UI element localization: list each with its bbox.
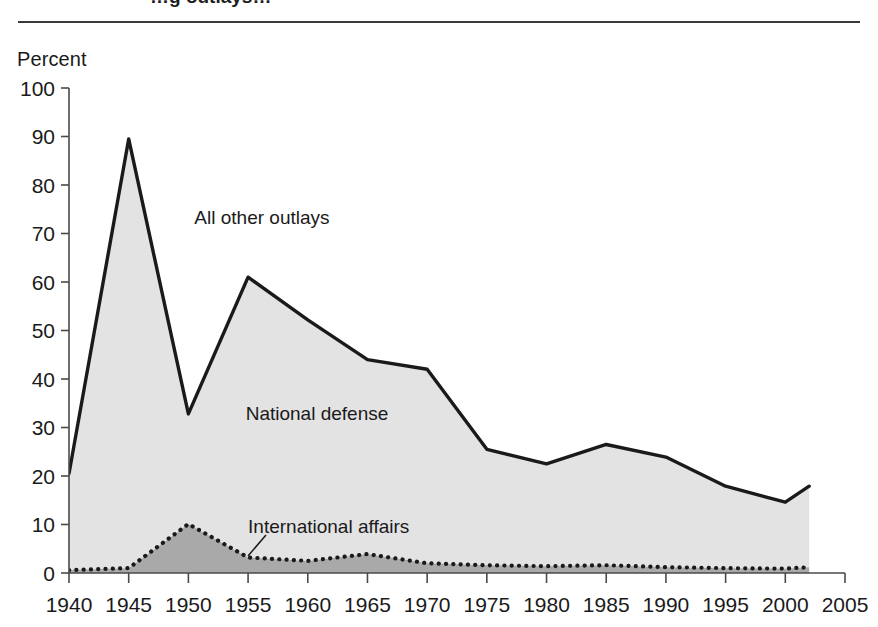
x-tick-label: 1975 [463, 593, 510, 616]
chart-annotation-international-affairs: International affairs [248, 516, 409, 537]
y-tick-label: 20 [32, 465, 55, 488]
y-tick-label: 90 [32, 125, 55, 148]
y-tick-label: 10 [32, 513, 55, 536]
y-tick-label: 30 [32, 416, 55, 439]
x-tick-label: 1990 [643, 593, 690, 616]
x-tick-label: 1985 [583, 593, 630, 616]
x-tick-layer: 1940194519501955196019651970197519801985… [46, 573, 869, 616]
y-tick-layer: 0102030405060708090100 [20, 77, 69, 585]
figure-container: …g outlays… Percent 01020304050607080901… [0, 0, 878, 627]
x-tick-label: 2005 [822, 593, 869, 616]
x-tick-label: 1965 [344, 593, 391, 616]
x-tick-label: 1960 [284, 593, 331, 616]
x-tick-label: 1950 [165, 593, 212, 616]
y-tick-label: 60 [32, 271, 55, 294]
y-tick-label: 100 [20, 77, 55, 100]
area-chart-plot: 0102030405060708090100 19401945195019551… [0, 0, 878, 627]
x-tick-label: 2000 [762, 593, 809, 616]
x-tick-label: 1995 [702, 593, 749, 616]
x-tick-label: 1970 [404, 593, 451, 616]
all-other-outlays-area [69, 139, 809, 570]
chart-annotation-all-other-outlays: All other outlays [194, 207, 329, 228]
x-tick-label: 1940 [46, 593, 93, 616]
y-tick-label: 0 [43, 562, 55, 585]
y-tick-label: 40 [32, 368, 55, 391]
y-tick-label: 50 [32, 319, 55, 342]
x-tick-label: 1945 [105, 593, 152, 616]
series-layer [69, 139, 809, 573]
x-tick-label: 1980 [523, 593, 570, 616]
y-tick-label: 70 [32, 222, 55, 245]
chart-annotation-national-defense: National defense [246, 403, 389, 424]
y-tick-label: 80 [32, 174, 55, 197]
x-tick-label: 1955 [225, 593, 272, 616]
